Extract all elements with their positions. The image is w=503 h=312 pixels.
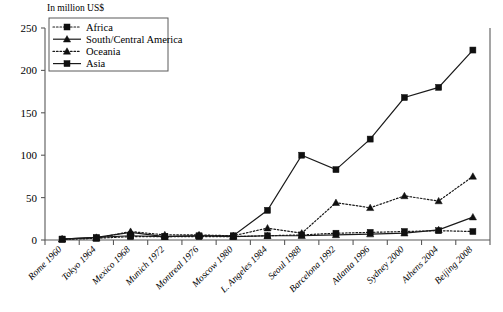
line-chart: 050100150200250Rome 1960Tokyo 1964Mexico… (0, 0, 503, 312)
series-marker-asia (196, 233, 202, 239)
y-axis-tick-label: 50 (26, 192, 38, 204)
legend-sample-marker (64, 61, 70, 67)
series-marker-south-central-america (469, 214, 476, 220)
legend-label: South/Central America (86, 34, 183, 45)
series-marker-africa (470, 229, 476, 235)
series-marker-asia (59, 236, 65, 242)
series-marker-oceania (401, 192, 408, 198)
series-marker-asia (436, 84, 442, 90)
series-marker-asia (265, 207, 271, 213)
y-axis-tick-label: 0 (32, 234, 38, 246)
series-marker-asia (299, 152, 305, 158)
series-marker-oceania (264, 225, 271, 231)
series-marker-asia (367, 136, 373, 142)
y-axis-title: In million US$ (47, 3, 104, 13)
legend-sample-marker (64, 24, 70, 30)
legend-label: Africa (86, 22, 113, 33)
series-marker-asia (162, 234, 168, 240)
series-marker-oceania (332, 199, 339, 205)
series-marker-asia (230, 233, 236, 239)
y-axis-tick-label: 150 (21, 107, 38, 119)
y-axis-tick-label: 100 (21, 149, 38, 161)
legend-label: Asia (86, 58, 106, 69)
y-axis-tick-label: 250 (21, 22, 38, 34)
series-marker-asia (470, 47, 476, 53)
x-axis-tick-label: Rome 1960 (25, 244, 63, 282)
y-axis-tick-label: 200 (21, 64, 38, 76)
series-marker-asia (401, 95, 407, 101)
series-marker-oceania (469, 173, 476, 179)
chart-canvas: 050100150200250Rome 1960Tokyo 1964Mexico… (0, 0, 503, 312)
series-marker-asia (333, 167, 339, 173)
series-marker-asia (93, 234, 99, 240)
legend-label: Oceania (86, 46, 121, 57)
series-marker-asia (128, 233, 134, 239)
